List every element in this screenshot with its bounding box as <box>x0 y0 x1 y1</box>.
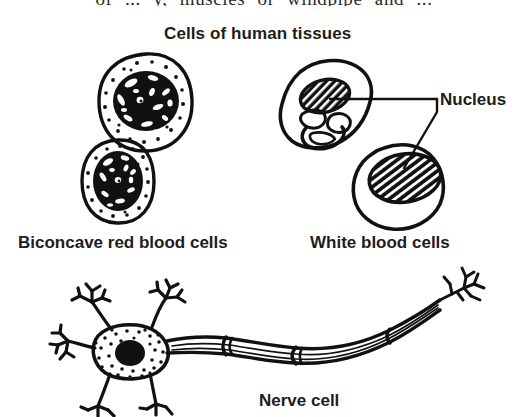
red-blood-cell-upper <box>99 54 192 151</box>
axon <box>167 300 440 364</box>
white-blood-cell-lower <box>353 145 444 229</box>
axon-terminals <box>440 268 484 300</box>
nerve-cell <box>50 268 484 416</box>
cells-of-human-tissues-illustration <box>0 0 528 417</box>
rbc-upper-core <box>113 71 179 133</box>
white-blood-cell-upper <box>280 60 371 148</box>
rbc-lower-core <box>93 151 143 211</box>
neuron-nucleus <box>115 340 145 366</box>
